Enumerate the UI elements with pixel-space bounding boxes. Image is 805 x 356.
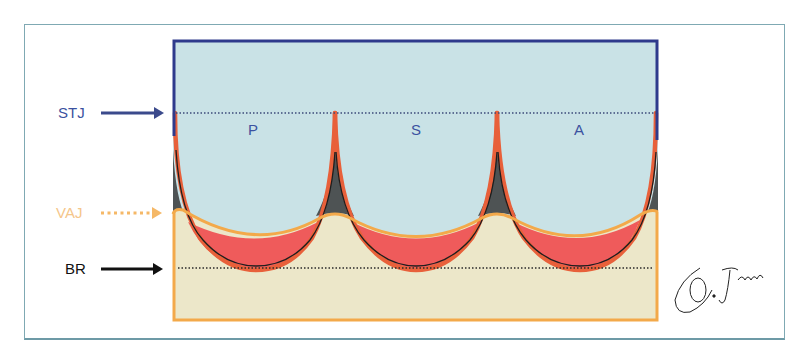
arrow-right-icon bbox=[101, 107, 164, 119]
arrow-right-icon bbox=[101, 263, 163, 275]
vaj-label: VAJ bbox=[56, 204, 82, 221]
signature bbox=[675, 268, 763, 313]
dotted-arrow-right-icon bbox=[101, 207, 162, 219]
cusp-label-p: P bbox=[248, 121, 258, 138]
aortic-root-diagram: STJ VAJ BR P S A bbox=[0, 0, 805, 356]
cusp-label-s: S bbox=[411, 121, 421, 138]
stj-label: STJ bbox=[58, 104, 85, 121]
br-label: BR bbox=[65, 260, 86, 277]
cusp-label-a: A bbox=[574, 121, 584, 138]
